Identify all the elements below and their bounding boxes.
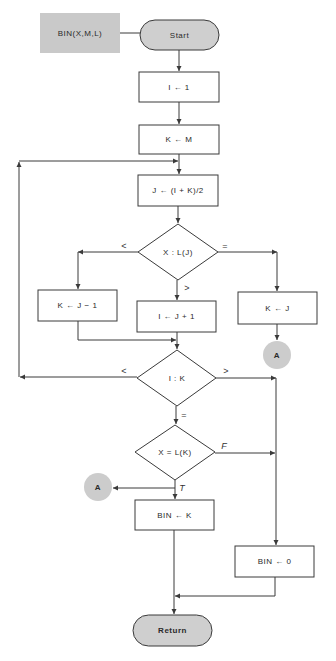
connector-right-label: A: [274, 351, 280, 360]
return-terminal: Return: [133, 615, 212, 646]
start-terminal: Start: [140, 20, 219, 50]
edge-bin-zero-to-merge: [175, 577, 275, 596]
connector-a-left: A: [84, 473, 112, 501]
k-minus-label: K ← J − 1: [58, 301, 98, 310]
decision-compare-label: X : L(J): [163, 248, 193, 257]
ik-branch-equal-label: =: [181, 410, 186, 420]
init-k-label: K ← M: [166, 135, 193, 144]
process-result-not-found: BIN ← 0: [235, 546, 314, 577]
decision-ik: I : K < > =: [121, 350, 228, 420]
ik-branch-less-label: <: [121, 366, 126, 376]
i-plus-label: I ← J + 1: [158, 312, 195, 321]
return-label: Return: [158, 626, 187, 635]
connector-a-right: A: [263, 341, 291, 369]
process-compute-j: J ← (I + K)/2: [138, 175, 218, 206]
process-k-j: K ← J: [238, 292, 317, 324]
k-j-label: K ← J: [265, 304, 289, 313]
init-i-label: I ← 1: [168, 83, 190, 92]
annotation-label: BIN(X,M,L): [58, 29, 103, 38]
ik-branch-greater-label: >: [223, 366, 228, 376]
process-init-k: K ← M: [139, 125, 219, 154]
binary-search-flowchart: BIN(X,M,L) Start I ← 1 K ← M J ← (I + K)…: [0, 0, 336, 661]
decision-found: X = L(K) F T: [135, 425, 227, 493]
process-result-found: BIN ← K: [135, 500, 214, 530]
process-i-plus: I ← J + 1: [137, 301, 216, 332]
decision-compare: X : L(J) < = >: [121, 224, 227, 293]
branch-equal-label: =: [222, 241, 227, 251]
found-branch-false-label: F: [221, 441, 227, 451]
compute-j-label: J ← (I + K)/2: [152, 186, 204, 195]
decision-ik-label: I : K: [169, 374, 186, 383]
result-not-found-label: BIN ← 0: [258, 557, 292, 566]
found-branch-true-label: T: [179, 483, 186, 493]
branch-less-label: <: [121, 241, 126, 251]
branch-greater-label: >: [184, 283, 189, 293]
process-k-minus: K ← J − 1: [38, 290, 117, 321]
connector-left-label: A: [95, 483, 101, 492]
annotation-box: BIN(X,M,L): [40, 13, 120, 53]
decision-found-label: X = L(K): [158, 448, 192, 457]
result-found-label: BIN ← K: [157, 511, 192, 520]
start-label: Start: [170, 31, 190, 40]
process-init-i: I ← 1: [139, 72, 219, 102]
